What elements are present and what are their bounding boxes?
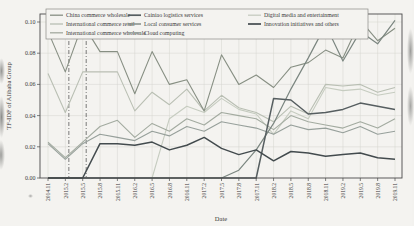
x-tick-label: 2019.8 (375, 183, 381, 199)
x-tick-label: 2018.2 (271, 183, 277, 199)
legend-label: Cainiao logistics services (144, 12, 204, 18)
x-tick-label: 2015.11 (115, 183, 121, 201)
x-tick-label: 2017.8 (236, 183, 242, 199)
legend-label: Innovation initiatives and others (264, 21, 340, 27)
legend-label: Digital media and entertainment (264, 12, 339, 18)
x-tick-label: 2016.11 (184, 183, 190, 201)
x-tick-label: 2016.8 (167, 183, 173, 199)
x-tick-label: 2019.2 (340, 183, 346, 199)
x-tick-label: 2015.8 (97, 183, 103, 199)
legend-label: China commerce wholesale (66, 12, 130, 18)
x-tick-label: 2019.11 (392, 183, 398, 201)
x-tick-label: 2016.2 (132, 183, 138, 199)
x-tick-label: 2017.11 (254, 183, 260, 201)
legend-label: International commerce retail (66, 21, 135, 27)
x-tick-label: 2017.5 (219, 183, 225, 199)
y-axis-title: TF-IDF of Alibaba Group (5, 62, 12, 129)
y-tick-label: 0.04 (25, 113, 36, 119)
x-tick-label: 2017.2 (201, 183, 207, 199)
x-axis-title: Date (215, 215, 227, 222)
y-tick-label: 0.10 (25, 19, 36, 25)
legend-label: Cloud computing (144, 30, 185, 36)
x-tick-label: 2018.5 (288, 183, 294, 199)
x-tick-label: 2015.2 (63, 183, 69, 199)
y-tick-label: 0.08 (25, 50, 36, 56)
x-tick-label: 2019.5 (358, 183, 364, 199)
legend-label: Local consumer services (144, 21, 202, 27)
x-tick-label: 2016.5 (149, 183, 155, 199)
x-tick-label: 2015.5 (80, 183, 86, 199)
y-tick-label: 0.02 (25, 144, 36, 150)
x-tick-label: 2018.11 (323, 183, 329, 201)
y-tick-label: 0.06 (25, 81, 36, 87)
x-tick-label: 2018.8 (306, 183, 312, 199)
x-tick-label: 2014.11 (45, 183, 51, 201)
y-tick-label: 0.00 (25, 175, 36, 181)
